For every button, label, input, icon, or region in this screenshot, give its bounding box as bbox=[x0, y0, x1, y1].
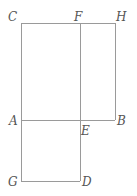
label-e: E bbox=[80, 124, 90, 138]
geometry-diagram: C F H A E B G D bbox=[0, 0, 137, 196]
label-d: D bbox=[81, 175, 92, 189]
label-g: G bbox=[8, 175, 18, 189]
label-a: A bbox=[8, 114, 18, 128]
label-f: F bbox=[73, 10, 83, 24]
label-h: H bbox=[115, 10, 127, 24]
label-c: C bbox=[8, 10, 17, 24]
label-b: B bbox=[116, 114, 126, 128]
